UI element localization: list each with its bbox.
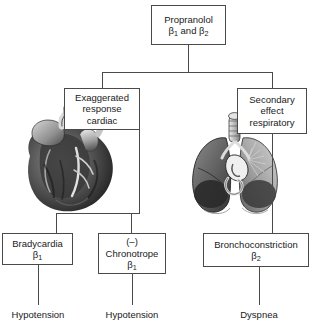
- connector-to-bronchoconstriction: [272, 134, 273, 233]
- node-chronotrope-line1: (–): [126, 236, 138, 248]
- outcome-hypotension-left: Hypotension: [0, 309, 76, 320]
- connector-to-respiratory: [272, 72, 273, 88]
- node-chronotrope-line3: β1: [127, 259, 136, 271]
- connector-bronchoconstriction-to-dyspnea: [259, 267, 260, 305]
- outcome-hypotension-middle: Hypotension: [94, 309, 170, 320]
- node-secondary-respiratory-effect[interactable]: Secondary effect respiratory: [237, 88, 307, 134]
- flowchart-diagram: Propranolol β1 and β2: [0, 0, 314, 332]
- node-bradycardia-line1: Bradycardia: [12, 238, 63, 250]
- node-chronotrope-line2: Chronotrope: [106, 248, 159, 260]
- node-cardiac-line3: cardiac: [87, 115, 118, 127]
- node-bradycardia[interactable]: Bradycardia β1: [2, 233, 73, 265]
- connector-to-cardiac: [102, 72, 103, 88]
- node-propranolol-line2: β1 and β2: [168, 25, 208, 37]
- connector-to-chronotrope: [131, 213, 132, 233]
- connector-cardiac-stem: [139, 130, 140, 213]
- connector-cardiac-split-bar: [56, 213, 140, 214]
- node-cardiac-line1: Exaggerated: [75, 92, 129, 104]
- connector-root-split-bar: [102, 72, 272, 73]
- node-exaggerated-cardiac-response[interactable]: Exaggerated response cardiac: [64, 88, 140, 130]
- connector-bradycardia-to-hypotension: [38, 265, 39, 305]
- outcome-dyspnea-right: Dyspnea: [228, 309, 290, 320]
- node-respiratory-line2: effect: [260, 105, 283, 117]
- node-bradycardia-line2: β1: [33, 249, 42, 261]
- node-bronchoconstriction-line2: β2: [251, 250, 260, 262]
- node-respiratory-line3: respiratory: [250, 117, 295, 129]
- node-cardiac-line2: response: [82, 103, 121, 115]
- node-propranolol[interactable]: Propranolol β1 and β2: [151, 5, 226, 45]
- node-respiratory-line1: Secondary: [249, 94, 294, 106]
- connector-to-bradycardia: [56, 213, 57, 233]
- node-bronchoconstriction[interactable]: Bronchoconstriction β2: [203, 233, 309, 267]
- connector-root-stem: [188, 45, 189, 72]
- node-propranolol-line1: Propranolol: [164, 14, 213, 26]
- node-bronchoconstriction-line1: Bronchoconstriction: [214, 239, 297, 251]
- connector-chronotrope-to-hypotension: [132, 274, 133, 305]
- node-negative-chronotrope[interactable]: (–) Chronotrope β1: [98, 233, 166, 274]
